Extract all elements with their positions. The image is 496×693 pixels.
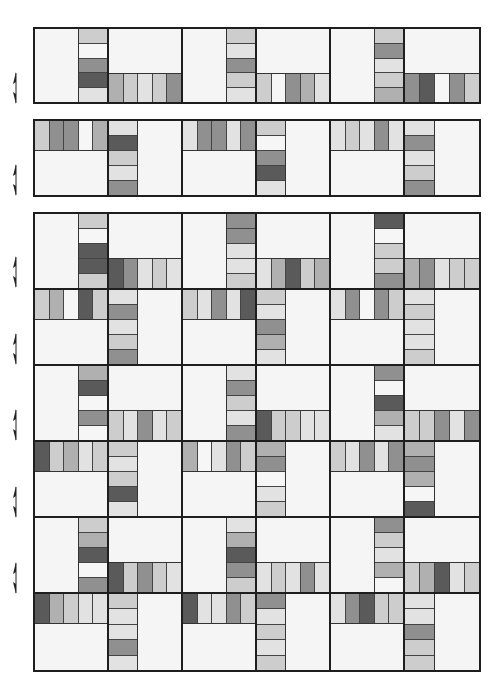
fabric-bar [375,229,403,244]
fabric-bar [375,518,403,533]
fabric-bar [198,121,213,150]
fabric-bar [257,487,285,502]
fabric-bar [183,442,198,471]
fabric-bar [450,563,465,592]
fabric-bar [375,381,403,396]
fabric-bar [405,320,434,335]
fabric-bar [375,533,403,548]
fabric-bar [50,594,65,623]
fabric-bar [50,442,65,471]
fabric-bar [198,442,213,471]
fabric-bar [138,563,153,592]
fabric-bar [109,640,137,655]
fabric-bar [109,411,124,440]
quilt-block [35,594,109,670]
fabric-bar [465,411,479,440]
pieced-strip [35,121,107,151]
fabric-bar [79,548,107,563]
fabric-bar [35,290,50,319]
pieced-strip [405,73,479,102]
quilt-block [35,29,109,102]
quilt-block [35,290,109,366]
fabric-bar [465,563,479,592]
quilt-block [257,290,331,366]
fabric-bar [257,640,285,655]
fabric-bar [286,259,301,288]
quilt-block [257,29,331,102]
seam-press-arrow-icon [9,332,23,366]
quilt-block [257,594,331,670]
seam-press-arrow-icon [9,71,23,105]
fabric-bar [405,121,434,136]
pieced-strip [257,290,286,364]
pieced-strip [109,258,181,288]
pieced-strip [405,410,479,440]
fabric-bar [375,88,403,102]
fabric-bar [93,121,107,150]
fabric-bar [109,457,137,472]
quilt-block [405,29,479,102]
fabric-bar [346,442,361,471]
block-grid [35,214,479,670]
quilt-block [109,366,183,442]
fabric-bar [35,121,50,150]
quilt-block [331,214,405,290]
fabric-bar [405,290,434,305]
fabric-bar [375,259,403,274]
fabric-bar [286,563,301,592]
fabric-bar [257,259,272,288]
fabric-bar [346,290,361,319]
fabric-bar [227,396,255,411]
block-grid [35,29,479,102]
fabric-bar [272,411,287,440]
fabric-bar [79,442,94,471]
pieced-strip [405,121,435,195]
fabric-bar [138,74,153,102]
fabric-bar [272,563,287,592]
fabric-bar [375,274,403,288]
fabric-bar [109,121,137,136]
fabric-bar [167,74,181,102]
fabric-bar [389,594,403,623]
fabric-bar [375,73,403,88]
fabric-bar [109,151,137,166]
fabric-bar [420,411,435,440]
fabric-bar [109,563,124,592]
fabric-bar [167,259,181,288]
fabric-bar [405,335,434,350]
fabric-bar [389,442,403,471]
quilt-block [405,214,479,290]
pieced-strip [257,121,286,195]
fabric-bar [212,290,227,319]
fabric-bar [109,74,124,102]
pieced-strip [109,290,138,364]
fabric-bar [405,350,434,364]
fabric-bar [79,533,107,548]
fabric-bar [79,381,107,396]
fabric-bar [227,73,255,88]
fabric-bar [109,181,137,195]
fabric-bar [241,121,255,150]
fabric-bar [227,563,255,578]
pieced-strip [109,410,181,440]
pieced-strip [374,518,403,592]
strip-row-2 [33,119,481,197]
pieced-strip [226,29,255,102]
fabric-bar [227,290,242,319]
fabric-bar [138,411,153,440]
fabric-bar [124,411,139,440]
strip-row-1 [33,27,481,104]
quilt-block [35,442,109,518]
fabric-bar [227,411,255,426]
fabric-bar [405,74,420,102]
fabric-bar [109,472,137,487]
pieced-strip [257,258,329,288]
fabric-bar [301,563,316,592]
fabric-bar [79,563,107,578]
fabric-bar [79,426,107,440]
quilt-block [405,442,479,518]
fabric-bar [227,548,255,563]
fabric-bar [109,502,137,516]
fabric-bar [79,518,107,533]
fabric-bar [420,74,435,102]
